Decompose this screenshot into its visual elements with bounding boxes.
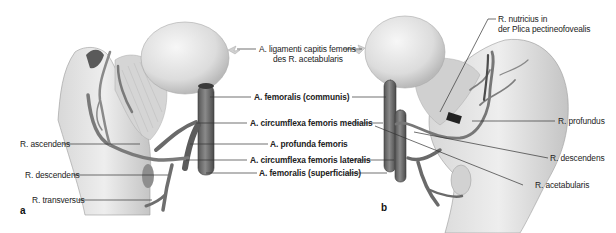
label-r-profundus: R. profundus bbox=[558, 116, 605, 126]
label-line: des R. acetabularis bbox=[259, 54, 356, 64]
panel-label-a: a bbox=[20, 205, 26, 216]
label-line: A. ligamenti capitis femoris bbox=[259, 44, 356, 54]
label-r-transversus: R. transversus bbox=[32, 195, 85, 205]
label-a-ligamenti-capitis: A. ligamenti capitis femoris des R. acet… bbox=[259, 44, 356, 64]
label-r-nutricius: R. nutricius in der Plica pectineofoveal… bbox=[498, 14, 590, 34]
label-a-femoralis-superficialis: A. femoralis (superficialis) bbox=[259, 168, 361, 178]
label-a-profunda-femoris: A. profunda femoris bbox=[270, 139, 348, 149]
panel-label-b: b bbox=[381, 202, 387, 213]
label-a-circumflexa-medialis: A. circumflexa femoris medialis bbox=[250, 118, 373, 128]
label-r-acetabularis: R. acetabularis bbox=[535, 180, 589, 190]
label-a-femoralis-communis: A. femoralis (communis) bbox=[254, 92, 349, 102]
label-a-circumflexa-lateralis: A. circumflexa femoris lateralis bbox=[250, 155, 371, 165]
label-line: der Plica pectineofovealis bbox=[498, 24, 590, 34]
label-r-descendens-a: R. descendens bbox=[25, 170, 80, 180]
label-r-ascendens: R. ascendens bbox=[20, 139, 70, 149]
anatomy-illustration bbox=[0, 0, 616, 233]
label-line: R. nutricius in bbox=[498, 14, 590, 24]
label-r-descendens-b: R. descendens bbox=[550, 153, 605, 163]
